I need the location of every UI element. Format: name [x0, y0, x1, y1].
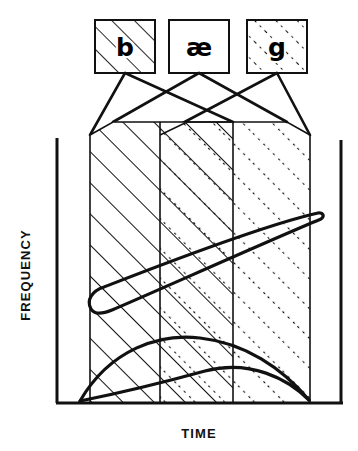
- phoneme-label-ae: æ: [186, 33, 212, 62]
- speech-spectrogram-schematic: b æ g: [0, 0, 358, 451]
- y-axis-label: FREQUENCY: [18, 229, 33, 321]
- connector-ae-left: [113, 73, 199, 122]
- phoneme-box-ae[interactable]: æ: [169, 20, 229, 73]
- phoneme-label-g: g: [268, 33, 286, 62]
- phoneme-box-g[interactable]: g: [247, 20, 307, 73]
- figure-page: b æ g: [0, 0, 358, 451]
- connector-ae-right: [199, 73, 287, 122]
- phoneme-box-group: b æ g: [95, 20, 307, 73]
- phoneme-box-b[interactable]: b: [95, 20, 155, 73]
- connector-b-right: [125, 73, 233, 122]
- x-axis-label: TIME: [181, 426, 216, 441]
- spectrogram-body: [85, 115, 318, 410]
- phoneme-label-b: b: [116, 33, 134, 62]
